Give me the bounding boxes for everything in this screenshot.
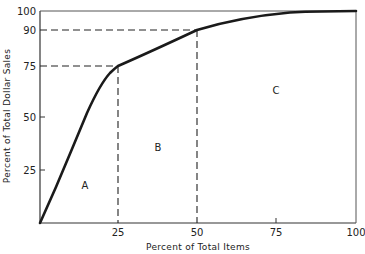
cumulative-sales-curve <box>40 11 356 223</box>
y-tick-100: 100 <box>17 6 36 17</box>
y-tick-25: 25 <box>23 165 36 176</box>
reference-lines <box>40 30 197 223</box>
y-tick-75: 75 <box>23 61 36 72</box>
x-tick-50: 50 <box>191 227 204 238</box>
y-tick-90: 90 <box>23 25 36 36</box>
region-label-b: B <box>155 142 162 153</box>
plot-frame <box>40 11 356 223</box>
y-tick-50: 50 <box>23 112 36 123</box>
region-label-a: A <box>82 180 89 191</box>
x-axis-label: Percent of Total Items <box>146 242 250 252</box>
x-tick-75: 75 <box>270 227 283 238</box>
region-label-c: C <box>273 85 280 96</box>
y-ticks: 25 50 75 90 100 <box>17 6 45 176</box>
x-tick-100: 100 <box>346 227 365 238</box>
x-tick-25: 25 <box>112 227 125 238</box>
y-axis-label: Percent of Total Dollar Sales <box>2 49 12 183</box>
abc-analysis-chart: 25 50 75 90 100 25 50 75 100 A B C Perce… <box>0 0 365 254</box>
x-ticks: 25 50 75 100 <box>112 218 365 238</box>
